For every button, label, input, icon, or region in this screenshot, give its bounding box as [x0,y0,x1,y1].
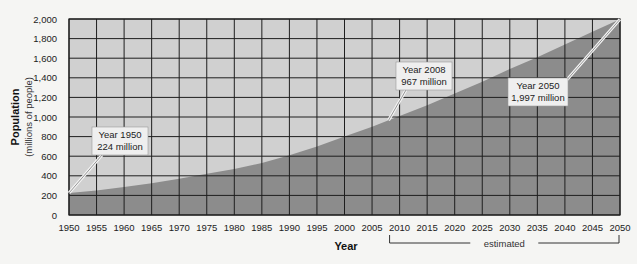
x-tick-label: 1975 [196,222,217,233]
y-tick-label: 0 [52,210,57,221]
y-tick-label: 1,200 [33,92,57,103]
x-tick-label: 2015 [417,222,438,233]
callout-line2: 224 million [97,141,142,152]
x-tick-label: 1995 [306,222,327,233]
y-axis-title: Population [9,88,21,145]
x-tick-label: 1980 [224,222,245,233]
y-tick-label: 200 [41,190,57,201]
x-tick-label: 2040 [554,222,575,233]
x-tick-label: 1950 [58,222,79,233]
x-axis-title: Year [334,240,358,252]
x-tick-label: 1990 [279,222,300,233]
y-tick-label: 1,000 [33,112,57,123]
estimated-label: estimated [484,238,525,249]
y-tick-label: 800 [41,131,57,142]
x-tick-label: 2035 [527,222,548,233]
estimated-bracket: estimated [390,235,619,249]
callout-line1: Year 2008 [403,64,446,75]
x-tick-label: 2050 [609,222,630,233]
y-axis-ticks: 02004006008001,0001,2001,4001,6001,8002,… [33,14,57,221]
x-tick-label: 1970 [169,222,190,233]
gridlines [69,19,620,215]
callout-line2: 967 million [401,76,446,87]
x-tick-label: 2020 [444,222,465,233]
population-chart: 02004006008001,0001,2001,4001,6001,8002,… [0,0,637,264]
y-tick-label: 1,800 [33,33,57,44]
y-tick-label: 2,000 [33,14,57,25]
x-tick-label: 2010 [389,222,410,233]
x-tick-label: 2030 [499,222,520,233]
x-tick-label: 2045 [582,222,603,233]
y-axis-subtitle: (millions of people) [23,77,34,157]
x-tick-label: 2025 [472,222,493,233]
x-tick-label: 1960 [114,222,135,233]
x-tick-label: 1955 [86,222,107,233]
y-tick-label: 600 [41,151,57,162]
callout-line2: 1,997 million [511,92,564,103]
x-axis-ticks: 1950195519601965197019751980198519901995… [58,222,630,233]
x-tick-label: 1985 [251,222,272,233]
x-tick-label: 1965 [141,222,162,233]
y-tick-label: 400 [41,170,57,181]
x-tick-label: 2005 [361,222,382,233]
callout-line1: Year 2050 [517,80,560,91]
x-tick-label: 2000 [334,222,355,233]
y-tick-label: 1,400 [33,72,57,83]
y-tick-label: 1,600 [33,53,57,64]
callout-line1: Year 1950 [99,129,142,140]
